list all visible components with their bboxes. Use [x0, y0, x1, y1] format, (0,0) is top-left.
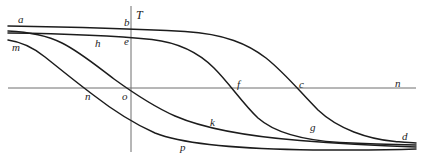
- curve-label-e: e: [124, 36, 129, 47]
- curve-m-n-p-d: [8, 40, 416, 150]
- curve-label-c: c: [299, 79, 304, 90]
- curve-label-f: f: [237, 79, 240, 90]
- curve-label-k: k: [210, 117, 215, 128]
- curve-label-b: b: [124, 17, 130, 28]
- curve-label-m: m: [12, 42, 20, 53]
- axis-crossing-label-n-left: n: [85, 91, 91, 102]
- curve-diagram-figure: T a b c d e f g h k m n o n p: [0, 0, 422, 161]
- axis-end-label-n-right: n: [395, 78, 401, 89]
- curve-label-a: a: [18, 14, 24, 25]
- origin-label-o: o: [122, 91, 128, 102]
- curve-label-h: h: [95, 38, 101, 49]
- curve-label-d: d: [402, 131, 408, 142]
- axis-label-T: T: [136, 9, 143, 21]
- plot-area: [0, 0, 422, 161]
- curve-label-p: p: [180, 142, 186, 153]
- curve-h-o-k-d: [8, 31, 416, 147]
- curve-label-g: g: [310, 122, 316, 133]
